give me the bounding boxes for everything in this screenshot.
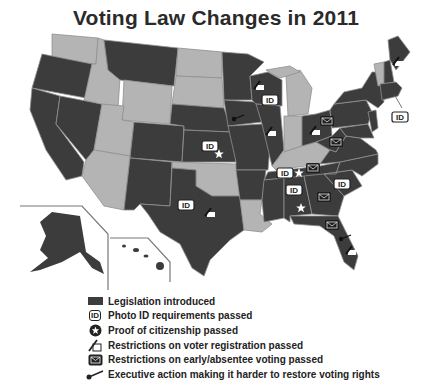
state-co [130, 122, 184, 162]
state-fl [290, 216, 358, 270]
state-mi [286, 70, 312, 116]
us-map: ID [0, 0, 432, 290]
envelope-icon [86, 353, 104, 366]
state-ak [30, 212, 104, 274]
gavel-icon [86, 368, 104, 381]
state-pa [330, 100, 372, 128]
legislation-swatch-icon [86, 295, 104, 308]
legend-item-legislation: Legislation introduced [86, 294, 380, 309]
star-icon [86, 324, 104, 337]
state-nd [176, 48, 222, 78]
state-sd [172, 76, 224, 108]
legend-item-photo-id: ID Photo ID requirements passed [86, 309, 380, 324]
state-wy [122, 80, 172, 124]
legend-item-early-voting: Restrictions on early/absentee voting pa… [86, 352, 380, 367]
state-ms [262, 178, 284, 222]
state-ma [380, 82, 402, 100]
state-ar [236, 170, 266, 200]
state-nm [124, 158, 172, 210]
legend-item-registration: Restrictions on voter registration passe… [86, 338, 380, 353]
photo-id-icon: ID [86, 309, 104, 322]
legend-item-citizenship: Proof of citizenship passed [86, 323, 380, 338]
registration-icon [86, 339, 104, 352]
map-legend: Legislation introduced ID Photo ID requi… [86, 294, 380, 382]
legend-item-executive: Executive action making it harder to res… [86, 367, 380, 382]
state-az [82, 150, 130, 210]
